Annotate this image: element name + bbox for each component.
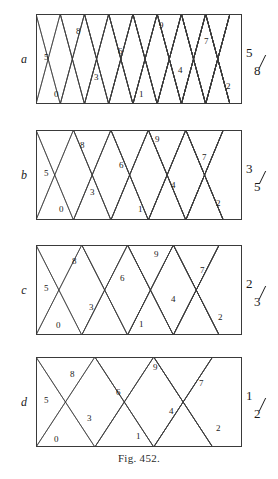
panel-c-paths (36, 245, 219, 335)
panel-a-fraction: 5 8 (246, 46, 276, 77)
cell-label-4: 4 (171, 180, 176, 190)
cell-label-8: 8 (80, 140, 85, 150)
reflection-path (133, 14, 230, 104)
panel-b-labels: 5083619472 (44, 134, 221, 214)
cell-label-1: 1 (139, 89, 144, 99)
cell-label-1: 1 (139, 319, 144, 329)
cell-label-2: 2 (226, 81, 231, 91)
cell-label-0: 0 (56, 320, 61, 330)
panel-a-svg: 5083619472 (36, 14, 242, 104)
cell-label-5: 5 (44, 395, 49, 405)
panel-c-svg: 5083619472 (36, 245, 242, 335)
reflection-path (181, 14, 229, 104)
cell-label-7: 7 (199, 378, 204, 388)
cell-label-4: 4 (171, 294, 176, 304)
panel-a-paths (36, 14, 230, 104)
cell-label-3: 3 (89, 302, 94, 312)
panel-letter-a: a (14, 52, 34, 67)
reflection-path (148, 130, 223, 220)
reflection-path (36, 245, 219, 335)
cell-label-8: 8 (76, 26, 81, 36)
cell-label-8: 8 (70, 369, 75, 379)
cell-label-3: 3 (90, 187, 95, 197)
cell-label-9: 9 (159, 20, 164, 30)
reflection-path (84, 14, 229, 104)
panel-d-paths (36, 357, 213, 447)
panel-b-svg: 5083619472 (36, 130, 242, 220)
cell-label-0: 0 (54, 434, 59, 444)
cell-label-9: 9 (153, 362, 158, 372)
panel-c-fraction: 2 3 (246, 277, 276, 308)
cell-label-3: 3 (94, 72, 99, 82)
cell-label-4: 4 (169, 406, 174, 416)
cell-label-7: 7 (200, 265, 205, 275)
cell-label-9: 9 (155, 134, 160, 144)
cell-label-7: 7 (204, 36, 209, 46)
cell-label-6: 6 (118, 46, 123, 56)
reflection-path (84, 14, 229, 104)
cell-label-8: 8 (72, 256, 77, 266)
panel-d-labels: 5083619472 (44, 362, 221, 444)
cell-label-2: 2 (216, 198, 221, 208)
reflection-path (36, 14, 230, 104)
cell-label-1: 1 (138, 204, 143, 214)
cell-label-0: 0 (54, 89, 59, 99)
panel-d-fraction: 1 2 (246, 389, 276, 420)
reflection-path (36, 245, 219, 335)
panel-d-svg: 5083619472 (36, 357, 242, 447)
reflection-path (133, 14, 230, 104)
panel-b-fraction: 3 5 (246, 162, 276, 193)
reflection-path (73, 130, 223, 220)
reflection-path (148, 130, 223, 220)
cell-label-3: 3 (87, 413, 92, 423)
panel-c: 5083619472 (36, 245, 242, 335)
cell-label-5: 5 (44, 168, 49, 178)
reflection-path (36, 14, 230, 104)
cell-label-9: 9 (154, 249, 159, 259)
cell-label-5: 5 (44, 52, 49, 62)
cell-label-2: 2 (216, 423, 221, 433)
reflection-path (36, 245, 219, 335)
reflection-path (181, 14, 229, 104)
cell-label-6: 6 (116, 387, 121, 397)
cell-label-2: 2 (218, 312, 223, 322)
reflection-path (73, 130, 223, 220)
reflection-path (36, 14, 230, 104)
panel-a: 5083619472 (36, 14, 242, 104)
figure-caption: Fig. 452. (0, 452, 278, 464)
reflection-path (36, 245, 219, 335)
cell-label-0: 0 (59, 204, 64, 214)
panel-b: 5083619472 (36, 130, 242, 220)
reflection-path (36, 14, 230, 104)
cell-label-6: 6 (119, 160, 124, 170)
panel-letter-c: c (14, 283, 34, 298)
panel-letter-d: d (14, 395, 34, 410)
cell-label-7: 7 (202, 152, 207, 162)
panel-b-paths (36, 130, 223, 220)
cell-label-4: 4 (178, 65, 183, 75)
cell-label-5: 5 (44, 283, 49, 293)
figure-452: a 5083619472 5 8 b 5083619472 3 5 c 5083… (0, 0, 278, 479)
cell-label-6: 6 (120, 273, 125, 283)
panel-d: 5083619472 (36, 357, 242, 447)
cell-label-1: 1 (136, 431, 141, 441)
panel-letter-b: b (14, 168, 34, 183)
